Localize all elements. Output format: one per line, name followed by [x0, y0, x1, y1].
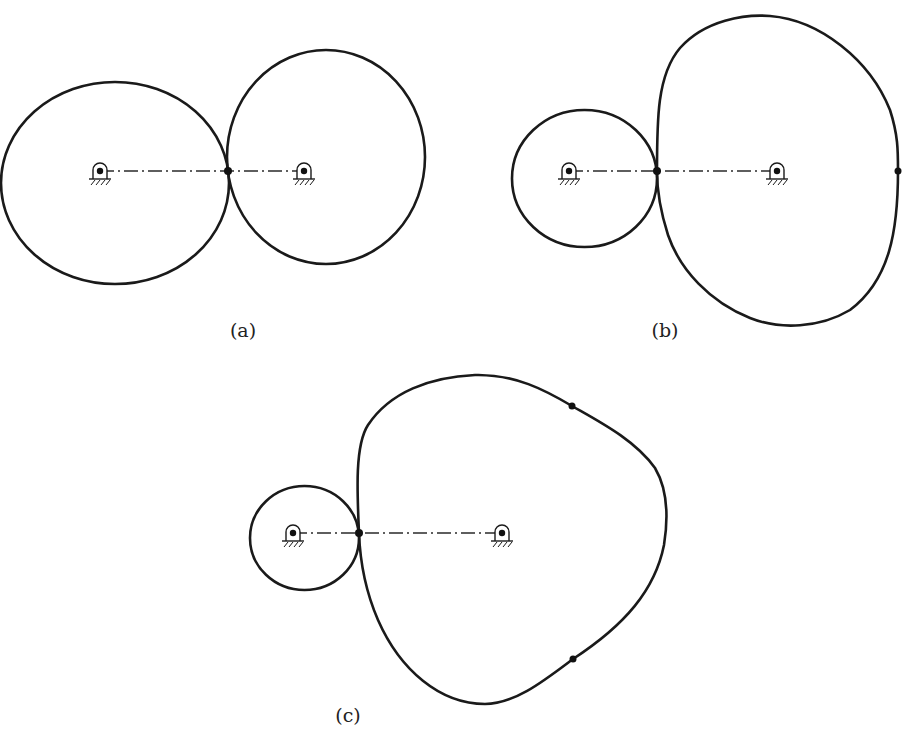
driver-pitch-curve — [250, 486, 359, 590]
contact-point — [355, 529, 363, 537]
panel-b-label: (b) — [652, 319, 679, 341]
follower-pitch-curve — [358, 375, 667, 704]
contact-point — [653, 167, 661, 175]
driver-pivot-icon — [282, 525, 304, 547]
driver-pivot-icon — [89, 163, 111, 185]
follower-pivot-icon — [293, 163, 315, 185]
marked-point — [570, 656, 577, 663]
follower-pivot-icon — [766, 163, 788, 185]
driver-pitch-curve — [512, 110, 657, 247]
panel-c — [250, 375, 666, 704]
panel-b — [512, 16, 902, 326]
panel-a — [1, 50, 425, 284]
follower-pivot-icon — [491, 525, 513, 547]
marked-point — [895, 168, 902, 175]
panel-c-label: (c) — [335, 704, 360, 726]
marked-point — [569, 403, 576, 410]
driver-pivot-icon — [558, 163, 580, 185]
mechanism-diagram — [0, 0, 908, 743]
driver-pitch-curve — [1, 82, 229, 284]
contact-point — [224, 167, 232, 175]
follower-pitch-curve — [227, 50, 425, 264]
panel-a-label: (a) — [230, 319, 256, 341]
